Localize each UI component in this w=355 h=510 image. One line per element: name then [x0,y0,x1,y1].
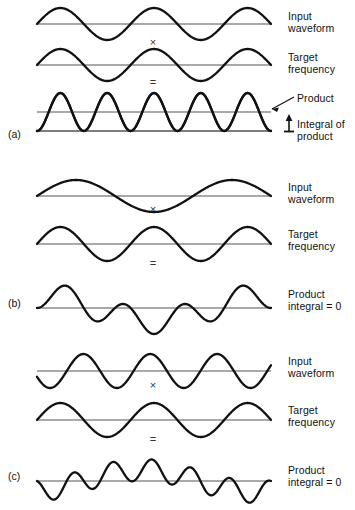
operator-equals-a: = [143,76,163,88]
wave-b-product [37,286,271,334]
label-b-target-frequency: Target frequency [288,228,335,252]
label-c-product-integral: Product integral = 0 [288,464,341,488]
label-a-product: Product [297,92,334,104]
label-b-input-waveform: Input waveform [288,181,334,205]
label-c-target-frequency: Target frequency [288,404,335,428]
label-a-target-frequency: Target frequency [288,51,335,75]
label-a-input-waveform: Input waveform [288,10,334,34]
panel-tag-c: (c) [8,470,20,482]
operator-multiply-c: × [143,379,163,391]
label-a-integral-of-product: Integral of product [297,118,345,142]
operator-multiply-a: × [143,36,163,48]
label-c-input-waveform: Input waveform [288,355,334,379]
operator-equals-c: = [143,433,163,445]
panel-tag-a: (a) [8,128,21,140]
waveform-figure [0,0,355,510]
operator-equals-b: = [143,257,163,269]
product-leader-line [272,97,294,109]
label-b-product-integral: Product integral = 0 [288,288,341,312]
operator-multiply-b: × [143,203,163,215]
waveform-canvas [0,0,355,510]
panel-tag-b: (b) [8,297,21,309]
integral-arrow-head [286,114,293,121]
